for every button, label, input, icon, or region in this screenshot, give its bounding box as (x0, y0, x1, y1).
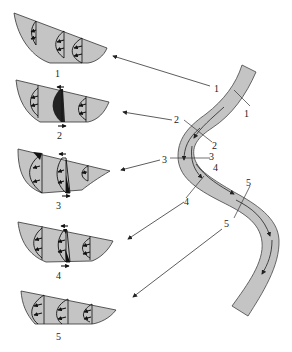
meander-channel: 1 1 2 2 3 3 4 4 5 5 (162, 65, 279, 316)
cut-label: 5 (246, 177, 251, 188)
cross-section-label: 5 (56, 331, 61, 342)
cut-label: 3 (162, 154, 167, 165)
cut-label: 1 (244, 108, 249, 119)
cut-label: 2 (212, 140, 217, 151)
cross-section-label: 4 (56, 270, 61, 281)
cross-section-4: 4 (18, 222, 113, 281)
cross-section-label: 2 (57, 130, 62, 141)
cut-label: 1 (214, 83, 219, 94)
cut-label: 4 (213, 162, 218, 173)
cut-label: 4 (184, 196, 189, 207)
meander-diagram: 1 2 3 (0, 0, 292, 352)
cross-section-label: 1 (55, 68, 60, 79)
cross-section-label: 3 (56, 200, 61, 211)
cross-section-2: 2 (16, 80, 109, 141)
cut-label: 5 (224, 218, 229, 229)
cut-label: 3 (209, 151, 214, 162)
cross-section-3: 3 (18, 149, 110, 211)
cross-section-1: 1 (14, 13, 107, 79)
cross-section-5: 5 (21, 291, 116, 342)
cut-label: 2 (174, 114, 179, 125)
